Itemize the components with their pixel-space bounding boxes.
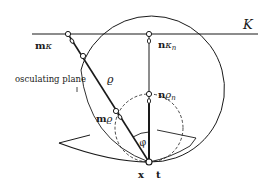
label-t: t [156,169,161,180]
arrow-n-kappa-n [147,39,150,44]
tangent-plane-wedge-left [59,135,90,143]
principal-normal-line [68,34,149,162]
point-m-kappa [65,31,70,36]
label-m-kappa: mκ [35,40,53,51]
arrow-n-rho-n [147,99,150,104]
label-x: x [138,169,145,180]
point-m-rho [113,108,118,113]
arrow-m-rho [117,114,122,120]
label-osculating-plane: osculating plane [15,74,86,84]
arrow-m-kappa [69,38,74,44]
point-n-rho-n [146,91,151,96]
osculating-circle-lower [81,70,149,162]
label-plane-k: Κ [242,17,254,32]
curvature-diagram: Κ mκ nκn nϱn mϱ ϱ φ osculating plane x t [0,0,269,184]
label-n-rho-n: nϱn [158,89,176,102]
label-rho: ϱ [107,73,114,86]
point-x [146,159,152,165]
tangent-plane-wedge-right [149,130,196,162]
point-n-kappa-n [146,31,151,36]
label-m-rho: mϱ [96,113,113,124]
point-circle-intersection [80,53,85,58]
label-n-kappa-n: nκn [158,39,177,52]
